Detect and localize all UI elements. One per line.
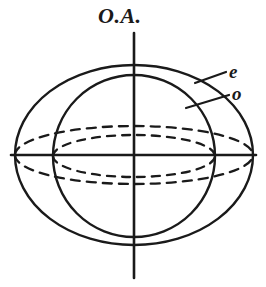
optic-axis-diagram — [0, 0, 266, 287]
figure-canvas: O.A. e o — [0, 0, 266, 287]
optic-axis-label: O.A. — [98, 5, 142, 27]
ordinary-wave-label: o — [232, 84, 242, 103]
extraordinary-wave-label: e — [229, 62, 237, 81]
leader-line-e — [195, 72, 226, 83]
